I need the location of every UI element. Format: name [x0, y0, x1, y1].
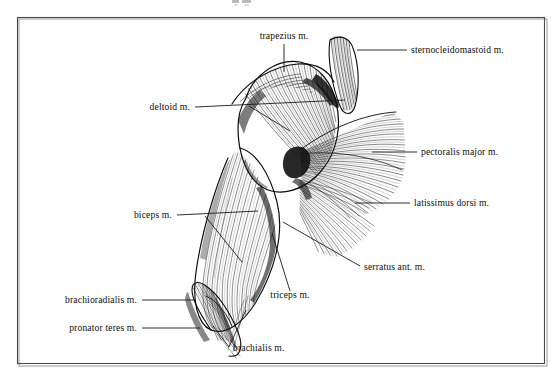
label-biceps: biceps m.: [134, 209, 172, 220]
label-brachialis: brachialis m.: [233, 342, 285, 353]
label-pectoralis-major: pectoralis major m.: [421, 146, 498, 157]
label-trapezius: trapezius m.: [260, 30, 309, 41]
label-sternocleidomastoid: sternocleidomastoid m.: [411, 44, 504, 55]
label-serratus-anterior: serratus ant. m.: [364, 261, 425, 272]
label-latissimus-dorsi: latissimus dorsi m.: [414, 197, 489, 208]
label-brachioradialis: brachioradialis m.: [65, 294, 137, 305]
label-pronator-teres: pronator teres m.: [69, 322, 137, 333]
label-deltoid: deltoid m.: [150, 101, 190, 112]
label-triceps: triceps m.: [270, 289, 309, 300]
anatomy-plate: trapezius m. sternocleidomastoid m. delt…: [0, 0, 559, 380]
anatomy-figure-canvas: trapezius m. sternocleidomastoid m. delt…: [0, 0, 559, 380]
